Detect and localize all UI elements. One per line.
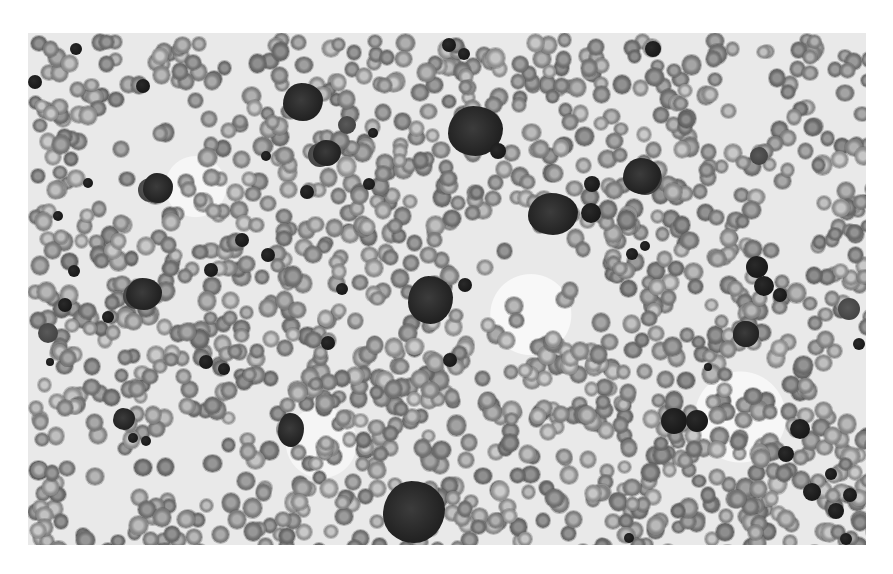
red-blood-cell <box>556 449 571 464</box>
red-blood-cell <box>596 379 613 396</box>
red-blood-cell <box>43 41 58 57</box>
red-blood-cell <box>826 489 840 502</box>
red-blood-cell <box>405 338 424 355</box>
red-blood-cell <box>375 166 390 181</box>
red-blood-cell <box>545 489 563 508</box>
red-blood-cell <box>798 378 812 393</box>
red-blood-cell <box>258 538 272 545</box>
red-blood-cell <box>94 254 108 267</box>
red-blood-cell <box>848 247 863 262</box>
red-blood-cell <box>54 230 67 244</box>
red-blood-cell <box>852 514 866 531</box>
nucleated-cell <box>843 488 857 502</box>
red-blood-cell <box>240 443 256 460</box>
red-blood-cell <box>831 151 848 168</box>
nucleated-cell <box>803 483 821 501</box>
nucleated-cell <box>778 446 794 462</box>
red-blood-cell <box>426 353 444 372</box>
nucleated-cell <box>661 408 687 434</box>
nucleated-cell <box>102 311 114 323</box>
red-blood-cell <box>242 172 256 187</box>
red-blood-cell <box>427 233 441 248</box>
red-blood-cell <box>99 35 114 49</box>
red-blood-cell <box>802 66 818 80</box>
red-blood-cell <box>178 269 193 283</box>
red-blood-cell <box>648 326 663 341</box>
red-blood-cell <box>709 469 725 485</box>
nucleated-cell <box>141 436 151 446</box>
red-blood-cell <box>562 114 578 130</box>
red-blood-cell <box>443 210 462 227</box>
red-blood-cell <box>840 63 855 78</box>
red-blood-cell <box>592 313 610 332</box>
red-blood-cell <box>688 279 703 294</box>
red-blood-cell <box>479 393 495 408</box>
red-blood-cell <box>459 81 472 93</box>
red-blood-cell <box>153 126 167 141</box>
red-blood-cell <box>59 461 75 476</box>
red-blood-cell <box>540 424 556 440</box>
red-blood-cell <box>143 532 157 545</box>
red-blood-cell <box>204 397 221 414</box>
red-blood-cell <box>83 379 100 395</box>
red-blood-cell <box>162 261 179 277</box>
red-blood-cell <box>803 297 817 310</box>
red-blood-cell <box>324 525 338 538</box>
red-blood-cell <box>511 74 525 88</box>
red-blood-cell <box>331 74 346 90</box>
red-blood-cell <box>657 371 674 388</box>
red-blood-cell <box>518 532 533 545</box>
red-blood-cell <box>145 406 161 423</box>
red-blood-cell <box>47 181 64 199</box>
red-blood-cell <box>491 481 509 500</box>
red-blood-cell <box>847 225 863 240</box>
red-blood-cell <box>617 365 630 378</box>
red-blood-cell <box>65 319 79 333</box>
red-blood-cell <box>134 459 153 476</box>
nucleated-cell <box>458 48 470 60</box>
red-blood-cell <box>152 48 168 64</box>
red-blood-cell <box>356 68 372 84</box>
red-blood-cell <box>244 522 261 541</box>
red-blood-cell <box>821 131 835 145</box>
red-blood-cell <box>320 168 337 187</box>
red-blood-cell <box>598 422 614 439</box>
nucleated-cell <box>261 248 275 262</box>
red-blood-cell <box>185 55 200 70</box>
red-blood-cell <box>804 119 821 136</box>
red-blood-cell <box>348 313 363 327</box>
red-blood-cell <box>590 345 607 364</box>
nucleated-cell <box>686 410 708 432</box>
red-blood-cell <box>84 79 98 92</box>
red-blood-cell <box>29 401 42 415</box>
nucleated-cell <box>746 256 768 278</box>
red-blood-cell <box>125 313 143 330</box>
red-blood-cell <box>247 100 262 116</box>
nucleated-cell <box>204 263 218 277</box>
nucleated-cell <box>840 533 852 545</box>
red-blood-cell <box>304 246 323 263</box>
red-blood-cell <box>320 479 338 498</box>
red-blood-cell <box>671 504 685 517</box>
red-blood-cell <box>194 193 207 207</box>
red-blood-cell <box>522 485 535 499</box>
red-blood-cell <box>649 279 665 295</box>
red-blood-cell <box>60 350 75 365</box>
red-blood-cell <box>709 251 725 267</box>
red-blood-cell <box>111 535 124 545</box>
red-blood-cell <box>833 264 848 278</box>
red-blood-cell <box>651 210 664 223</box>
red-blood-cell <box>31 169 44 183</box>
red-blood-cell <box>596 395 611 409</box>
red-blood-cell <box>79 106 97 125</box>
red-blood-cell <box>585 382 598 396</box>
red-blood-cell <box>426 129 439 142</box>
nucleated-cell <box>490 143 506 159</box>
red-blood-cell <box>461 532 479 545</box>
red-blood-cell <box>115 369 128 383</box>
red-blood-cell <box>588 39 604 55</box>
red-blood-cell <box>496 161 511 177</box>
nucleated-cell <box>704 363 712 371</box>
red-blood-cell <box>368 35 382 48</box>
red-blood-cell <box>407 235 422 251</box>
